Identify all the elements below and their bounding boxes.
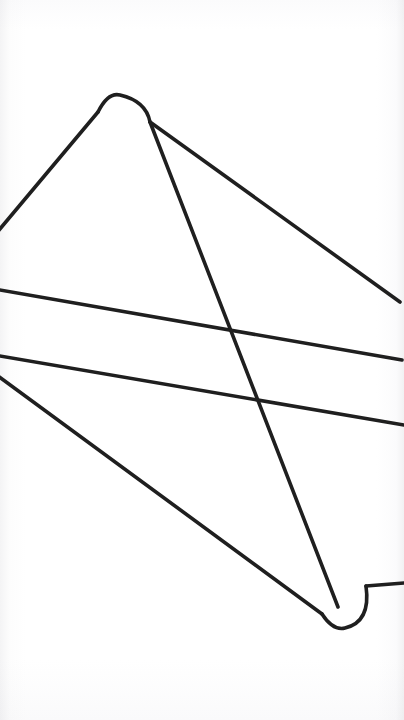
path-upper-left-ascender [0, 112, 98, 236]
continuous-line-artwork [0, 0, 404, 720]
path-upper-crossbar [0, 289, 402, 360]
path-upper-right-descender [150, 122, 400, 302]
path-top-hairpin-turn [98, 95, 150, 122]
path-lower-crossbar [0, 355, 404, 425]
path-bottom-hairpin-turn [322, 586, 367, 628]
path-long-diagonal [150, 122, 338, 607]
path-bottom-right-exit [366, 583, 404, 586]
drawing-canvas [0, 0, 404, 720]
path-lower-left-descender [0, 373, 322, 614]
